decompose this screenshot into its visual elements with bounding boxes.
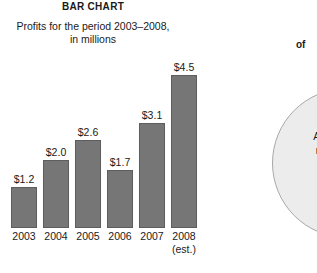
- bar-value-label: $2.6: [68, 126, 108, 138]
- bar-group: $3.1: [136, 0, 168, 228]
- bar-group: $2.0: [40, 0, 72, 228]
- bar-group: $4.5: [168, 0, 200, 228]
- pie-label-line-1: Answ: [296, 129, 317, 143]
- bar-value-label: $4.5: [164, 61, 204, 73]
- x-tick-year: 2007: [140, 230, 163, 242]
- pie-chart-heading-fragment: of: [296, 39, 305, 50]
- bar-chart-figure: BAR CHART Profits for the period 2003–20…: [0, 0, 200, 273]
- x-tick-year: 2003: [12, 230, 35, 242]
- bar-group: $1.2: [8, 0, 40, 228]
- x-tick-year: 2006: [108, 230, 131, 242]
- bar-value-label: $1.7: [100, 156, 140, 168]
- bar-2003: [11, 187, 37, 228]
- bar-group: $2.6: [72, 0, 104, 228]
- pie-label-line-2: mad: [296, 143, 317, 157]
- x-tick-year: 2008: [172, 230, 195, 242]
- x-tick-year: 2004: [44, 230, 67, 242]
- bar-value-label: $2.0: [36, 146, 76, 158]
- bar-value-label: $3.1: [132, 109, 172, 121]
- x-tick-note: (est.): [164, 243, 204, 256]
- x-tick-year: 2005: [76, 230, 99, 242]
- bar-2007: [139, 123, 165, 228]
- bar-value-label: $1.2: [4, 173, 44, 185]
- pie-label-line-3: 4: [296, 157, 317, 171]
- bar-2004: [43, 160, 69, 228]
- pie-chart-label-fragment: Answ mad 4: [296, 129, 317, 171]
- bar-2006: [107, 170, 133, 228]
- bar-2005: [75, 140, 101, 228]
- x-axis-labels: 200320042005200620072008(est.): [0, 230, 200, 270]
- x-tick-2008: 2008(est.): [164, 230, 204, 256]
- pie-chart-figure-partial: of Answ mad 4: [200, 0, 317, 273]
- bar-2008: [171, 75, 197, 228]
- plot-area: $1.2$2.0$2.6$1.7$3.1$4.5: [0, 0, 200, 228]
